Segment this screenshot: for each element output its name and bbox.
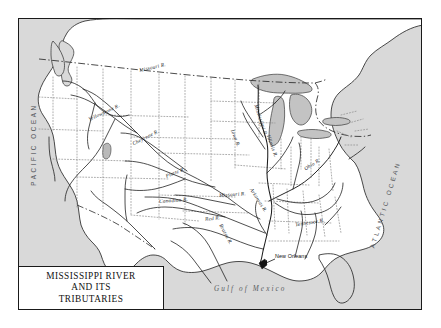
map-title-line-1: MISSISSIPPI RIVER [46,271,136,283]
map-title-line-3: TRIBUTARIES [59,294,124,306]
great-salt-lake [103,143,111,159]
map-title-line-2: AND ITS [71,282,111,294]
map-screenshot: PACIFIC OCEAN ATLANTIC OCEAN Gulf of Mex… [0,0,441,328]
map-title-box: MISSISSIPPI RIVER AND ITS TRIBUTARIES [18,266,164,310]
